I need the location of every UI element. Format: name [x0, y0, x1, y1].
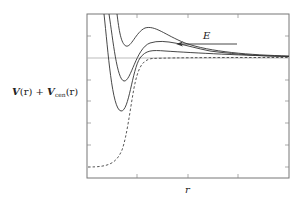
- bare-potential-dashed-curve: [88, 58, 289, 168]
- x-axis-label: r: [185, 184, 190, 195]
- y-axis-label: V(r) + Vcen(r): [12, 86, 78, 98]
- plot-frame: [87, 14, 289, 178]
- effective-potential-curve-3: [104, 14, 289, 111]
- x-ticks: [137, 14, 238, 178]
- potential-diagram: [0, 0, 303, 204]
- energy-label: E: [203, 30, 210, 41]
